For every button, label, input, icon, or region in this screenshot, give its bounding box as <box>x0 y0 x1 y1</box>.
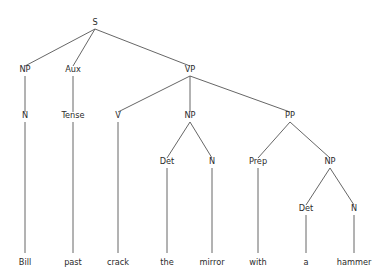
tree-node-s: S <box>92 17 97 27</box>
tree-terminal-hammer: hammer <box>337 257 372 267</box>
tree-node-tense: Tense <box>60 110 84 120</box>
tree-node-vp: VP <box>185 64 196 74</box>
tree-terminal-past: past <box>64 257 82 267</box>
tree-terminal-with: with <box>249 257 266 267</box>
tree-node-n-object: N <box>209 156 215 166</box>
tree-node-prep: Prep <box>249 156 267 166</box>
tree-node-v: V <box>115 110 121 120</box>
tree-node-det-oblique: Det <box>299 203 314 213</box>
tree-terminal-bill: Bill <box>19 257 31 267</box>
tree-terminal-the: the <box>160 257 173 267</box>
tree-node-np-subject: NP <box>19 64 30 74</box>
tree-node-n-oblique: N <box>351 203 357 213</box>
tree-node-np-oblique: NP <box>324 156 335 166</box>
tree-node-np-object: NP <box>184 110 195 120</box>
tree-node-n-subject: N <box>22 110 28 120</box>
tree-terminal-crack: crack <box>107 257 129 267</box>
tree-terminal-a: a <box>303 257 308 267</box>
syntax-tree-diagram: SNPAuxVPNTenseVNPPPDetNPrepNPDetN Billpa… <box>0 0 388 277</box>
tree-node-aux: Aux <box>65 64 81 74</box>
tree-terminal-mirror: mirror <box>199 257 225 267</box>
tree-node-det-object: Det <box>160 156 175 166</box>
tree-node-pp: PP <box>285 110 295 120</box>
diagram-background <box>0 0 388 277</box>
